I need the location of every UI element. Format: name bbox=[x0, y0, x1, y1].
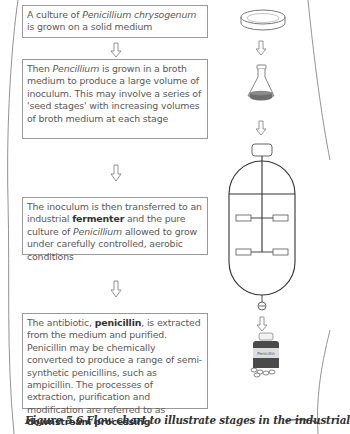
down-arrow-icon bbox=[255, 120, 267, 136]
italic-term: Pencillium bbox=[53, 63, 100, 74]
figure-caption: Figure 5.6 Flow chart to illustrate stag… bbox=[25, 414, 350, 426]
key-term: penicillin bbox=[95, 317, 142, 328]
italic-term: Penicillium chrysogenum bbox=[82, 9, 196, 20]
bottle-label: Penicillin bbox=[257, 351, 275, 356]
step-text: A culture of bbox=[27, 9, 82, 20]
fermenter-icon bbox=[226, 142, 298, 312]
italic-term: Penicillium bbox=[73, 226, 122, 237]
down-arrow-icon bbox=[256, 316, 268, 332]
step-text: , is extracted from the medium and purif… bbox=[27, 317, 202, 415]
key-term: fermenter bbox=[72, 213, 124, 224]
penicillin-bottle-icon: Penicillin bbox=[248, 332, 288, 380]
step-text: is grown on a solid medium bbox=[27, 21, 152, 32]
down-arrow-icon bbox=[110, 42, 122, 58]
step-text: Then bbox=[27, 63, 53, 74]
step-text: The antibiotic, bbox=[27, 317, 95, 328]
step-3-box: The inoculum is then transferred to an i… bbox=[22, 197, 208, 255]
step-2-box: Then Pencillium is grown in a broth medi… bbox=[22, 59, 208, 139]
down-arrow-icon bbox=[110, 164, 122, 182]
conical-flask-icon bbox=[245, 64, 277, 104]
down-arrow-icon bbox=[255, 40, 267, 56]
step-4-box: The antibiotic, penicillin, is extracted… bbox=[22, 313, 208, 409]
step-1-box: A culture of Penicillium chrysogenum is … bbox=[22, 5, 208, 38]
petri-dish-icon bbox=[238, 8, 288, 34]
down-arrow-icon bbox=[110, 280, 122, 298]
